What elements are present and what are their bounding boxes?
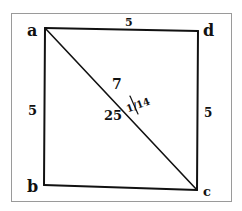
side-label-top: 5 <box>125 16 133 29</box>
side-bc <box>44 185 197 190</box>
vertex-label-c: c <box>203 184 211 199</box>
vertex-label-b: b <box>27 177 38 196</box>
side-label-right: 5 <box>204 106 212 120</box>
side-ad <box>45 28 198 31</box>
diagonal-label-fraction: 1/14 <box>125 96 152 115</box>
vertex-label-d: d <box>203 21 214 40</box>
diagonal-label-upper: 7 <box>112 76 122 92</box>
diagonal-label-lower: 25 <box>104 108 122 123</box>
side-label-left: 5 <box>28 103 37 118</box>
side-dc <box>197 31 198 190</box>
vertex-label-a: a <box>27 21 37 40</box>
square-diagram: a d b c 5 5 5 7 25 1/14 <box>0 0 242 211</box>
side-ab <box>44 28 45 185</box>
